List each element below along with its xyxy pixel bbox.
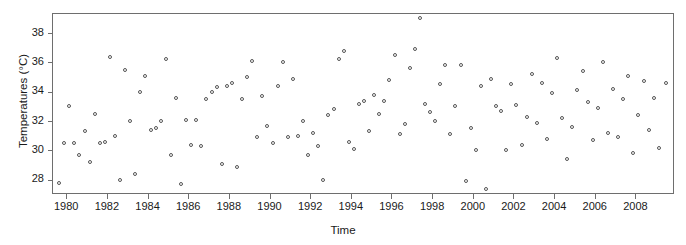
data-point (301, 119, 305, 123)
data-point (154, 126, 158, 130)
x-axis-tick-label: 1990 (257, 201, 281, 212)
x-axis-tick-label: 1986 (176, 201, 200, 212)
data-point (311, 131, 315, 135)
data-point (525, 115, 529, 119)
x-axis-tick (66, 194, 67, 199)
data-point (591, 138, 595, 142)
y-axis-title: Temperatures (°C) (17, 16, 29, 186)
data-point (113, 134, 117, 138)
data-point (428, 110, 432, 114)
data-point (128, 119, 132, 123)
y-axis-tick (48, 150, 53, 151)
data-point (550, 91, 554, 95)
data-point (443, 63, 447, 67)
x-axis-tick (148, 194, 149, 199)
data-point (403, 122, 407, 126)
data-point (149, 128, 153, 132)
x-axis-tick (270, 194, 271, 199)
data-point (347, 140, 351, 144)
x-axis-tick (310, 194, 311, 199)
data-point (174, 96, 178, 100)
data-point (362, 99, 366, 103)
x-axis-tick-label: 2004 (542, 201, 566, 212)
x-axis-tick (188, 194, 189, 199)
data-point (133, 172, 137, 176)
data-point (260, 94, 264, 98)
data-point (138, 90, 142, 94)
data-point (448, 132, 452, 136)
x-axis-tick (554, 194, 555, 199)
data-point (626, 74, 630, 78)
data-point (387, 78, 391, 82)
data-point (657, 146, 661, 150)
data-point (418, 16, 422, 20)
data-point (616, 135, 620, 139)
x-axis-tick-label: 1996 (379, 201, 403, 212)
data-point (215, 85, 219, 89)
data-point (306, 153, 310, 157)
data-point (636, 113, 640, 117)
data-point (535, 121, 539, 125)
data-point (143, 74, 147, 78)
data-point (560, 116, 564, 120)
x-axis-tick (229, 194, 230, 199)
data-point (494, 104, 498, 108)
x-axis-tick-label: 2006 (583, 201, 607, 212)
data-point (520, 143, 524, 147)
data-point (647, 128, 651, 132)
data-point (489, 77, 493, 81)
data-point (235, 165, 239, 169)
chart-figure: Temperatures (°C) 1980198219841986198819… (0, 0, 686, 245)
data-point (586, 100, 590, 104)
data-point (326, 113, 330, 117)
data-point (642, 79, 646, 83)
data-point (596, 106, 600, 110)
data-point (240, 97, 244, 101)
y-axis-tick-label: 30 (23, 144, 44, 155)
y-axis-tick (48, 33, 53, 34)
data-point (581, 69, 585, 73)
data-point (83, 129, 87, 133)
data-point (123, 68, 127, 72)
data-point (276, 84, 280, 88)
x-axis-tick-label: 1988 (217, 201, 241, 212)
x-axis-tick (391, 194, 392, 199)
data-point (62, 141, 66, 145)
data-point (108, 55, 112, 59)
y-axis-tick-label: 36 (23, 56, 44, 67)
x-axis-tick-label: 1980 (54, 201, 78, 212)
data-point (631, 151, 635, 155)
x-axis-tick-label: 2002 (501, 201, 525, 212)
data-point (509, 82, 513, 86)
data-point (118, 178, 122, 182)
data-point (652, 96, 656, 100)
x-axis-tick-label: 1998 (420, 201, 444, 212)
data-point (570, 125, 574, 129)
data-point (184, 118, 188, 122)
data-point (98, 141, 102, 145)
data-point (398, 132, 402, 136)
data-point (382, 99, 386, 103)
x-axis-tick (107, 194, 108, 199)
data-point (504, 148, 508, 152)
data-point (316, 144, 320, 148)
data-point (611, 87, 615, 91)
data-point (204, 97, 208, 101)
data-point (464, 179, 468, 183)
data-point (601, 60, 605, 64)
data-point (189, 143, 193, 147)
data-point (408, 66, 412, 70)
data-point (664, 81, 668, 85)
data-point (484, 187, 488, 191)
data-point (372, 93, 376, 97)
x-axis-tick (513, 194, 514, 199)
data-point (88, 160, 92, 164)
x-axis-tick (595, 194, 596, 199)
y-axis-tick (48, 121, 53, 122)
data-point (220, 162, 224, 166)
data-point (565, 157, 569, 161)
y-axis-tick-label: 32 (23, 115, 44, 126)
data-point (103, 140, 107, 144)
data-point (453, 104, 457, 108)
data-point (169, 153, 173, 157)
